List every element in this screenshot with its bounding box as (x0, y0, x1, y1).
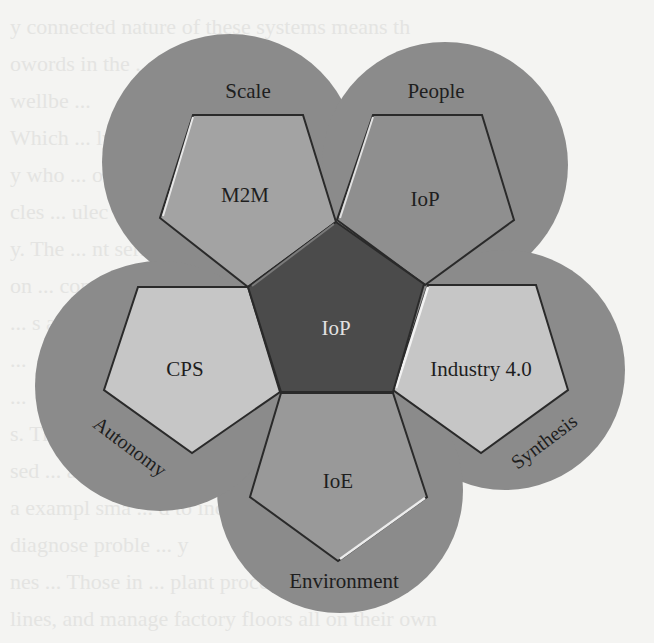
label-m2m: M2M (221, 183, 269, 207)
label-cps: CPS (166, 357, 203, 381)
label-people: People (407, 79, 464, 103)
label-iop-people: IoP (410, 187, 439, 211)
label-center-iop: IoP (321, 316, 350, 340)
label-industry: Industry 4.0 (430, 357, 532, 381)
iop-concept-diagram: Scale People Environment Autonomy Synthe… (0, 0, 654, 643)
label-environment: Environment (289, 569, 399, 593)
label-ioe: IoE (323, 469, 353, 493)
label-scale: Scale (225, 79, 270, 103)
